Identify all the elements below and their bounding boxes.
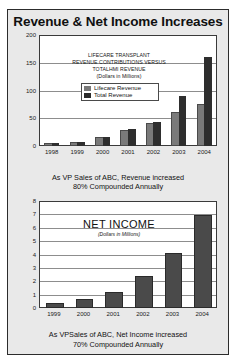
x-axis-tick-label: 2003 [166,149,191,156]
x-axis-tick-label: 2000 [90,149,115,156]
gridline [40,295,216,296]
gridline [40,241,216,242]
legend-swatch-icon [84,86,91,92]
net-income-caption-line1: As VPSales of ABC, Net Income increased [8,330,228,340]
x-axis-tick-label: 2004 [187,311,217,318]
y-axis-tick-label: 1 [8,292,36,298]
gridline [40,281,216,282]
gridline [40,255,216,256]
legend-item-lifecare-revenue: Lifecare Revenue [84,85,155,92]
y-axis-tick-label: 0 [8,143,36,149]
y-axis-tick-label: 50 [8,115,36,121]
legend-swatch-icon [84,93,91,99]
bar-net-income-2003 [165,253,182,309]
gridline [40,214,216,215]
slide-container: Revenue & Net Income Increases 050100150… [7,9,229,355]
y-axis-tick-label: 7 [8,211,36,217]
revenue-chart: 050100150200 LIFECARE TRANSPLANT REVENUE… [8,32,230,166]
x-axis-tick-label: 2002 [128,311,158,318]
bar-total-revenue-1998 [52,143,60,146]
bar-net-income-2004 [194,215,211,308]
y-axis-tick-label: 8 [8,198,36,204]
net-income-caption-line2: 70% Compounded Annually [8,340,228,350]
revenue-annotation-units: (Dollars in Millions) [8,73,230,80]
x-axis-tick-label: 1999 [64,149,89,156]
y-axis-tick-label: 3 [8,265,36,271]
legend-label: Total Revenue [94,92,132,99]
bar-net-income-2000 [76,299,93,308]
x-axis-tick-label: 1998 [39,149,64,156]
bar-total-revenue-2004 [204,57,212,146]
y-axis-tick-label: 200 [8,32,36,38]
page-title: Revenue & Net Income Increases [8,14,228,29]
bar-net-income-1999 [46,303,63,308]
revenue-caption-line2: 80% Compounded Annually [8,182,228,192]
y-axis-tick-label: 2 [8,278,36,284]
y-axis-tick-label: 100 [8,88,36,94]
x-axis-tick-label: 2004 [192,149,217,156]
y-axis-tick-label: 0 [8,305,36,311]
y-axis-tick-label: 4 [8,252,36,258]
bar-total-revenue-2000 [103,137,111,146]
revenue-annotation-line1: LIFECARE TRANSPLANT [8,52,230,59]
gridline [40,118,216,119]
bar-net-income-2001 [105,292,122,308]
bar-total-revenue-2003 [179,96,187,146]
y-axis-tick-label: 5 [8,238,36,244]
x-axis-tick-label: 2001 [115,149,140,156]
bar-total-revenue-1999 [77,142,85,146]
bar-total-revenue-2002 [153,122,161,146]
x-axis-tick-label: 2003 [158,311,188,318]
legend-item-total-revenue: Total Revenue [84,92,155,99]
x-axis-tick-label: 2002 [141,149,166,156]
bar-net-income-2002 [135,276,152,308]
net-income-chart: 012345678 NET INCOME (Dollars in Million… [8,198,230,322]
x-axis-tick-label: 1999 [39,311,69,318]
bar-total-revenue-2001 [128,129,136,146]
revenue-legend: Lifecare Revenue Total Revenue [81,83,159,101]
x-axis-tick-label: 2000 [69,311,99,318]
revenue-annotation-line3: TOTALHMI REVENUE [8,66,230,73]
legend-label: Lifecare Revenue [94,85,141,92]
gridline [40,268,216,269]
x-axis-tick-label: 2001 [98,311,128,318]
